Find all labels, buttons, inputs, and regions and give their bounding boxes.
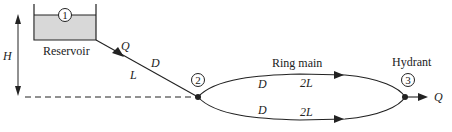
outflow-label: Q [434,90,443,104]
hydrant-label: Hydrant [392,55,432,69]
node-1-label: 1 [62,9,68,21]
supply-diameter-label: D [150,56,160,70]
lower-flow-arrow-icon [334,115,344,123]
upper-length-label: 2L [300,76,313,90]
height-label: H [2,49,13,63]
reservoir-label: Reservoir [43,44,90,58]
node-2-label: 2 [195,74,201,86]
reservoir: 1 [34,4,96,40]
supply-length-label: L [129,68,137,82]
supply-flow-label: Q [121,39,130,53]
node-3-label: 3 [405,74,411,86]
height-arrow [15,14,21,96]
pipe-network-diagram: 1 Reservoir H Q D L 2 Ring main D 2L D 2… [0,0,452,132]
outflow-arrow-icon [418,93,428,101]
upper-diameter-label: D [257,77,267,91]
ring-main-label: Ring main [272,56,322,70]
upper-flow-arrow-icon [334,71,344,79]
supply-pipe [96,40,198,97]
lower-length-label: 2L [300,105,313,119]
lower-diameter-label: D [257,103,267,117]
